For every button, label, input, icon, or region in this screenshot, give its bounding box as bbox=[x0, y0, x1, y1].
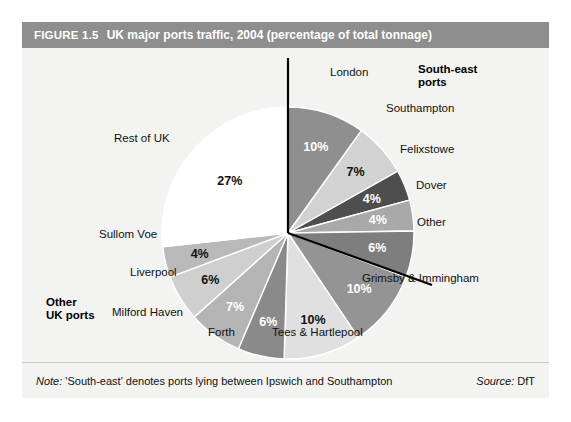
pie-value-label: 10% bbox=[347, 282, 372, 296]
pie-value-label: 6% bbox=[201, 273, 219, 287]
pie-label-liverpool: Liverpool bbox=[130, 266, 177, 278]
pie-label-sullom-voe: Sullom Voe bbox=[99, 228, 157, 240]
pie-value-label: 4% bbox=[191, 247, 209, 261]
pie-label-rest-of-uk: Rest of UK bbox=[114, 132, 170, 144]
pie-value-label: 7% bbox=[226, 300, 244, 314]
pie-value-label: 7% bbox=[346, 165, 364, 179]
pie-value-label: 6% bbox=[368, 241, 386, 255]
pie-label-southampton: Southampton bbox=[386, 102, 454, 114]
note-lead: Note: bbox=[36, 375, 62, 387]
figure-header: FIGURE 1.5 UK major ports traffic, 2004 … bbox=[22, 22, 549, 48]
source-text: DfT bbox=[514, 375, 535, 387]
pie-label-dover: Dover bbox=[416, 179, 447, 191]
group-label-other-uk-line1: Other bbox=[46, 296, 77, 308]
pie-label-tees-hartlepool: Tees & Hartlepool bbox=[272, 326, 363, 338]
pie-label-felixstowe: Felixstowe bbox=[400, 143, 454, 155]
pie-value-label: 10% bbox=[303, 140, 328, 154]
chart-area: 10%7%4%4%6%10%10%6%7%6%4%27% London Sout… bbox=[22, 48, 549, 362]
group-label-south-east: South-east ports bbox=[418, 63, 477, 89]
pie-label-forth: Forth bbox=[208, 326, 235, 338]
group-label-south-east-line1: South-east bbox=[418, 63, 477, 75]
pie-value-label: 27% bbox=[217, 174, 242, 188]
figure-source: Source: DfT bbox=[476, 375, 535, 387]
figure-footer: Note: 'South-east' denotes ports lying b… bbox=[22, 362, 549, 398]
pie-value-label: 4% bbox=[363, 192, 381, 206]
pie-value-label: 4% bbox=[369, 213, 387, 227]
group-label-south-east-line2: ports bbox=[418, 76, 447, 88]
pie-label-milford-haven: Milford Haven bbox=[112, 306, 183, 318]
source-lead: Source: bbox=[476, 375, 514, 387]
group-label-other-uk: Other UK ports bbox=[46, 296, 95, 322]
pie-chart: 10%7%4%4%6%10%10%6%7%6%4%27% bbox=[22, 48, 549, 362]
figure-title: UK major ports traffic, 2004 (percentage… bbox=[107, 28, 432, 42]
pie-label-other: Other bbox=[417, 216, 446, 228]
figure-number: FIGURE 1.5 bbox=[34, 29, 99, 41]
pie-label-grimsby-immingham: Grimsby & Immingham bbox=[362, 272, 479, 284]
note-text: 'South-east' denotes ports lying between… bbox=[62, 375, 392, 387]
figure-note: Note: 'South-east' denotes ports lying b… bbox=[36, 375, 392, 387]
group-label-other-uk-line2: UK ports bbox=[46, 309, 95, 321]
pie-label-london: London bbox=[330, 66, 368, 78]
figure-panel: FIGURE 1.5 UK major ports traffic, 2004 … bbox=[22, 22, 549, 398]
